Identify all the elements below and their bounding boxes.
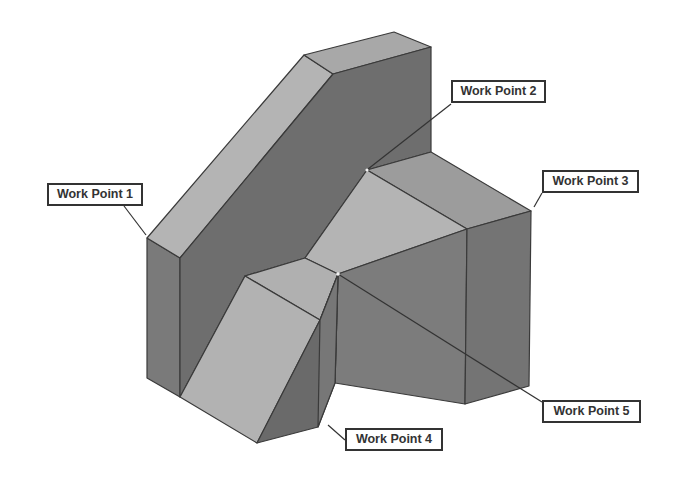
label-work-point-3: Work Point 3 [542, 170, 639, 193]
label-work-point-2: Work Point 2 [451, 80, 546, 103]
label-work-point-5: Work Point 5 [542, 400, 641, 423]
label-work-point-4: Work Point 4 [345, 428, 443, 451]
label-work-point-1: Work Point 1 [47, 183, 143, 206]
leader-wp4 [328, 425, 345, 440]
tall-block-left-face [147, 238, 180, 397]
work-point-5-marker [336, 272, 340, 276]
work-point-2-marker [365, 168, 368, 171]
leader-wp3 [534, 193, 542, 207]
leader-wp1 [124, 206, 146, 235]
